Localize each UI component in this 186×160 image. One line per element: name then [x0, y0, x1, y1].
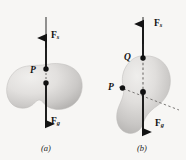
point-p-label-a: P — [30, 66, 36, 76]
gravity-force-label-b: Fg — [155, 119, 164, 129]
point-p-label-b: P — [108, 83, 114, 93]
point-q-dot-b — [140, 55, 145, 60]
gravity-force-subscript-b: g — [161, 121, 164, 128]
panel-b — [111, 17, 179, 133]
point-p-dot-b — [120, 85, 125, 90]
spring-force-subscript-a: s — [57, 33, 60, 40]
point-q-label-b: Q — [124, 53, 131, 63]
caption-a: (a) — [41, 144, 51, 153]
spring-force-label-a: Fs — [51, 31, 59, 41]
caption-b: (b) — [137, 144, 147, 153]
physics-figure-center-of-mass: Fs Fg P (a) Fs Fg Q P (b) — [0, 0, 186, 160]
center-of-mass-dot-b — [140, 89, 146, 95]
center-of-mass-dot-a — [43, 80, 48, 85]
spring-force-label-b: Fs — [154, 19, 162, 29]
gravity-force-label-a: Fg — [51, 117, 60, 127]
gravity-force-subscript-a: g — [57, 119, 60, 126]
point-p-dot-a — [43, 66, 48, 71]
spring-force-subscript-b: s — [160, 21, 163, 28]
panel-a — [7, 17, 83, 124]
